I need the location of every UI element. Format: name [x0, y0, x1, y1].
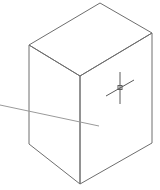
- crosshair-cursor-icon: [106, 72, 134, 104]
- box-right-face[interactable]: [80, 33, 152, 184]
- box-top-face[interactable]: [29, 3, 152, 76]
- box-left-face[interactable]: [29, 45, 80, 184]
- drawing-canvas[interactable]: [0, 0, 160, 190]
- drawing-viewport[interactable]: [0, 0, 160, 190]
- rubber-band-line: [0, 105, 99, 126]
